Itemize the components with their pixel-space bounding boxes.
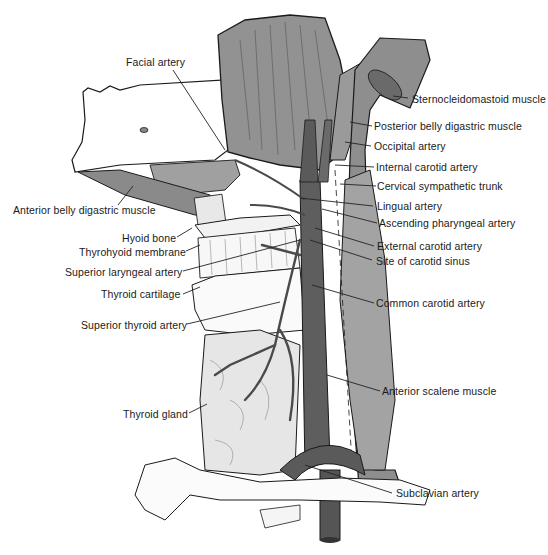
label-cervical-sympathetic-trunk: Cervical sympathetic trunk xyxy=(377,180,503,192)
label-anterior-belly-digastric-muscle: Anterior belly digastric muscle xyxy=(13,204,156,216)
label-posterior-belly-digastric-muscle: Posterior belly digastric muscle xyxy=(374,120,522,132)
mandible-shape xyxy=(72,80,228,172)
label-superior-thyroid-artery: Superior thyroid artery xyxy=(81,319,187,331)
label-occipital-artery: Occipital artery xyxy=(374,140,446,152)
label-superior-laryngeal-artery: Superior laryngeal artery xyxy=(65,266,182,278)
label-facial-artery: Facial artery xyxy=(126,56,185,68)
label-site-of-carotid-sinus: Site of carotid sinus xyxy=(376,255,470,267)
neck-arteries-diagram: Facial artery Anterior belly digastric m… xyxy=(0,0,548,555)
label-ascending-pharyngeal-artery: Ascending pharyngeal artery xyxy=(379,217,515,229)
label-common-carotid-artery: Common carotid artery xyxy=(376,297,485,309)
label-hyoid-bone: Hyoid bone xyxy=(122,232,176,244)
label-thyroid-gland: Thyroid gland xyxy=(123,408,188,420)
label-sternocleidomastoid-muscle: Sternocleidomastoid muscle xyxy=(412,93,546,105)
thyroid-gland-shape xyxy=(200,330,300,475)
label-internal-carotid-artery: Internal carotid artery xyxy=(376,161,478,173)
anterior-scalene-shape xyxy=(340,170,395,470)
label-thyrohyoid-membrane: Thyrohyoid membrane xyxy=(79,246,186,258)
thyroid-cartilage-shape xyxy=(192,268,305,335)
label-subclavian-artery: Subclavian artery xyxy=(396,487,479,499)
label-external-carotid-artery: External carotid artery xyxy=(377,240,482,252)
label-lingual-artery: Lingual artery xyxy=(377,200,442,212)
common-carotid-shape xyxy=(300,180,330,470)
label-anterior-scalene-muscle: Anterior scalene muscle xyxy=(382,385,496,397)
label-thyroid-cartilage: Thyroid cartilage xyxy=(101,288,180,300)
